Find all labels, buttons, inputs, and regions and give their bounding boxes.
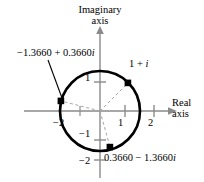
real-axis-title-line1: Real [172, 97, 191, 108]
tick-label-imaginary-neg2: −2 [79, 155, 90, 166]
point-label-root-upper-left: −1.3660 + 0.3660i [17, 47, 95, 58]
point-label-root-lower-right: 0.3660 − 1.3660i [104, 152, 176, 163]
imaginary-axis [96, 26, 104, 178]
dashed-radius-root-lower-right [100, 111, 110, 147]
imaginary-unit-glyph: i [145, 58, 148, 69]
point-marker-one-plus-i [125, 80, 132, 87]
point-marker-root-lower-right [107, 144, 114, 151]
tick-label-imaginary-1: 1 [85, 72, 90, 83]
point-label-one-plus-i-text: 1 + [129, 58, 145, 69]
dashed-radius-one-plus-i [100, 83, 128, 111]
tick-label-real-2: 2 [148, 117, 153, 128]
imaginary-unit-glyph: i [92, 47, 95, 58]
imaginary-axis-title: Imaginary axis [64, 4, 136, 26]
tick-label-real-1: 1 [118, 117, 123, 128]
tick-label-real-neg2: −2 [53, 117, 64, 128]
imaginary-axis-title-line2: axis [92, 15, 109, 26]
complex-plane-figure: Imaginary axis Real axis −2 1 2 1 −1 −2 … [0, 0, 204, 182]
leader-line-root-upper-left [48, 60, 62, 98]
imaginary-axis-title-line1: Imaginary [78, 4, 121, 15]
real-axis-title: Real axis [172, 97, 204, 119]
point-label-one-plus-i: 1 + i [129, 58, 148, 69]
real-axis-title-line2: axis [172, 108, 189, 119]
point-label-root-lower-right-text: 0.3660 − 1.3660 [104, 152, 173, 163]
point-marker-root-upper-left [58, 98, 65, 105]
imaginary-unit-glyph: i [173, 152, 176, 163]
point-label-root-upper-left-text: −1.3660 + 0.3660 [17, 47, 92, 58]
tick-label-imaginary-neg1: −1 [79, 128, 90, 139]
